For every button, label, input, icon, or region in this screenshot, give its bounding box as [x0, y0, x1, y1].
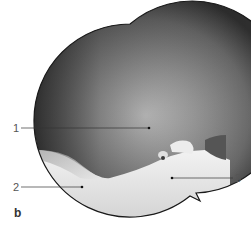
label-1: 1: [13, 123, 19, 134]
leader-dot-2: [81, 186, 84, 189]
leader-dot-3: [171, 177, 174, 180]
endoscopic-figure: 1 2 3 b: [0, 0, 251, 231]
leader-dot-1: [148, 127, 151, 130]
panel-letter: b: [14, 207, 21, 219]
label-2: 2: [13, 182, 19, 193]
label-3: 3: [235, 173, 241, 184]
endoscopic-view-image: [0, 0, 251, 231]
